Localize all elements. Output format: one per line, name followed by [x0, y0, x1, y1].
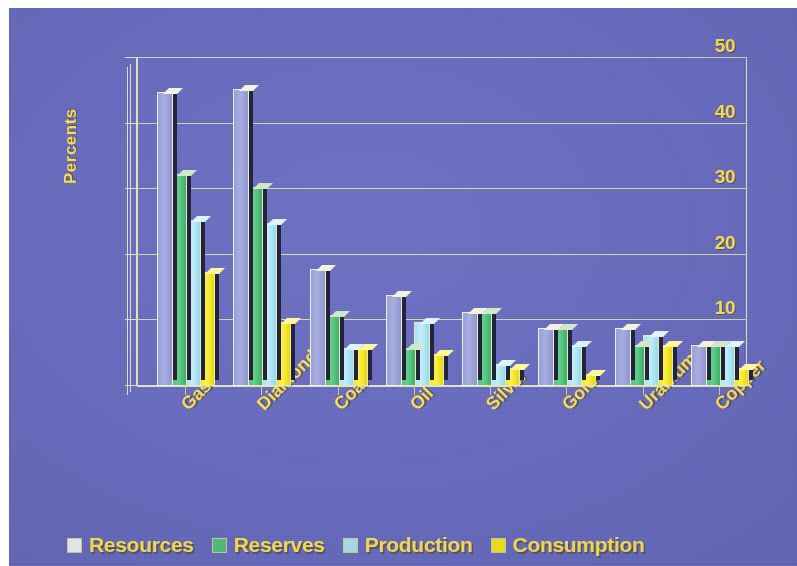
bar-top — [434, 350, 454, 356]
bar-top — [163, 88, 183, 94]
bar-top — [392, 291, 412, 297]
bar-face — [157, 92, 173, 386]
screenshot-page: Percents 01020304050 GasDiamondsCoalOilS… — [0, 0, 797, 566]
bar-top — [510, 364, 530, 370]
bar-top — [239, 85, 259, 91]
bar — [233, 91, 247, 386]
bar-group — [615, 58, 671, 386]
legend-label: Reserves — [234, 533, 325, 557]
legend-item: Reserves — [212, 533, 325, 557]
y-axis-line-back2 — [127, 67, 128, 395]
bar-group — [691, 58, 747, 386]
legend-item: Consumption — [491, 533, 645, 557]
y-tick-label: 50 — [715, 35, 735, 57]
legend-label: Production — [365, 533, 473, 557]
y-axis-title: Percents — [61, 108, 81, 184]
bar — [615, 330, 629, 386]
legend-label: Consumption — [513, 533, 645, 557]
bar-top — [267, 219, 287, 225]
legend-swatch — [67, 538, 82, 553]
bar-face — [310, 269, 326, 386]
y-tick-mark — [125, 188, 137, 189]
bar-face — [691, 345, 707, 386]
y-tick-mark — [125, 57, 137, 58]
bar-top — [420, 318, 440, 324]
chart-image: Percents 01020304050 GasDiamondsCoalOilS… — [9, 8, 797, 566]
bar-top — [663, 341, 683, 347]
bar — [386, 297, 400, 386]
y-tick-mark — [125, 254, 137, 255]
bar — [538, 330, 552, 386]
x-axis-label: Oil — [406, 383, 438, 415]
bar — [157, 94, 171, 386]
bar-top — [330, 311, 350, 317]
legend-item: Resources — [67, 533, 194, 557]
bar-top — [572, 341, 592, 347]
bar — [462, 314, 476, 386]
bar-group — [538, 58, 594, 386]
legend-swatch — [212, 538, 227, 553]
bar-top — [177, 170, 197, 176]
bar — [310, 271, 324, 386]
bar-group — [386, 58, 442, 386]
bar-face — [462, 312, 478, 386]
bar-top — [191, 216, 211, 222]
bar-face — [233, 89, 249, 386]
bar-top — [621, 324, 641, 330]
bar-top — [281, 318, 301, 324]
plot-area: 01020304050 GasDiamondsCoalOilSilverGold… — [137, 58, 747, 386]
legend-swatch — [343, 538, 358, 553]
legend-swatch — [491, 538, 506, 553]
y-tick-mark — [125, 319, 137, 320]
y-axis-line-back — [130, 64, 131, 392]
bar-face — [615, 328, 631, 386]
y-axis-line — [136, 58, 138, 386]
bar-group — [310, 58, 366, 386]
bar-top — [205, 268, 225, 274]
bar-top — [253, 183, 273, 189]
bar-group — [462, 58, 518, 386]
legend-item: Production — [343, 533, 473, 557]
bar-face — [386, 295, 402, 386]
bar-top — [586, 370, 606, 376]
bar-top — [316, 265, 336, 271]
bar-top — [649, 331, 669, 337]
bar-face — [538, 328, 554, 386]
y-tick-mark — [125, 123, 137, 124]
legend-label: Resources — [89, 533, 194, 557]
y-tick-mark — [125, 385, 137, 386]
chart-legend: ResourcesReservesProductionConsumption — [67, 533, 645, 557]
bar — [691, 347, 705, 386]
bar-group — [157, 58, 213, 386]
bar-group — [233, 58, 289, 386]
